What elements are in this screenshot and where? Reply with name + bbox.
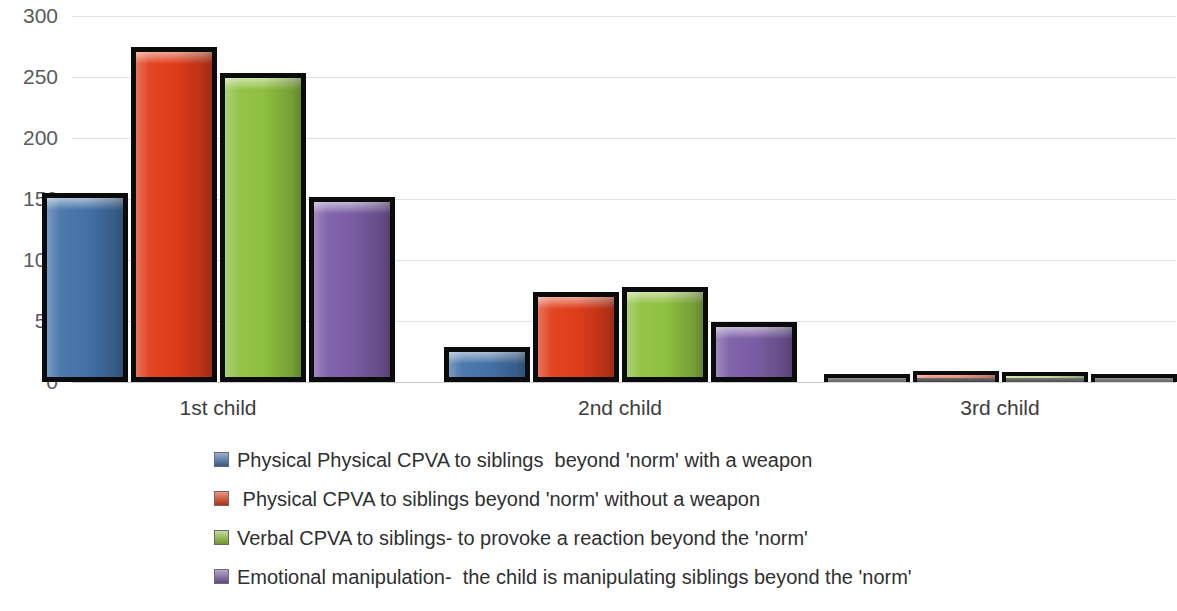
- y-tick-label-200: 200: [0, 127, 58, 148]
- bar-fill: [716, 327, 792, 377]
- bar-fill: [627, 292, 703, 377]
- bar-1st-child-series-2: [131, 47, 217, 383]
- legend-item-1[interactable]: Physical Physical CPVA to siblings beyon…: [0, 440, 1176, 479]
- legend-item-3[interactable]: Verbal CPVA to siblings- to provoke a re…: [0, 518, 1176, 557]
- y-tick-label-300: 300: [0, 5, 58, 26]
- bar-3rd-child-series-2: [913, 371, 999, 382]
- y-tick-label-250: 250: [0, 66, 58, 87]
- gridline-300: [72, 16, 1176, 17]
- legend-label-4: Emotional manipulation- the child is man…: [237, 566, 912, 588]
- bar-fill: [47, 198, 123, 377]
- bar-3rd-child-series-3: [1002, 372, 1088, 382]
- bar-fill: [136, 52, 212, 378]
- bar-fill: [449, 352, 525, 377]
- plot-area: [72, 16, 1176, 382]
- bar-2nd-child-series-2: [533, 292, 619, 382]
- bar-2nd-child-series-3: [622, 287, 708, 382]
- bar-1st-child-series-1: [42, 193, 128, 382]
- bar-fill: [917, 375, 995, 378]
- legend-label-1: Physical Physical CPVA to siblings beyon…: [237, 449, 812, 471]
- chart-legend: Physical Physical CPVA to siblings beyon…: [0, 440, 1176, 596]
- legend-swatch-icon-1: [214, 452, 229, 467]
- legend-item-4[interactable]: Emotional manipulation- the child is man…: [0, 557, 1176, 596]
- bar-1st-child-series-3: [220, 73, 306, 382]
- legend-label-2: Physical CPVA to siblings beyond 'norm' …: [237, 488, 760, 510]
- bar-fill: [538, 297, 614, 377]
- bar-2nd-child-series-1: [444, 347, 530, 382]
- legend-item-2[interactable]: Physical CPVA to siblings beyond 'norm' …: [0, 479, 1176, 518]
- bar-fill: [1006, 376, 1084, 378]
- bar-3rd-child-series-4: [1091, 374, 1177, 382]
- legend-swatch-icon-3: [214, 530, 229, 545]
- bar-3rd-child-series-1: [824, 374, 910, 382]
- legend-label-3: Verbal CPVA to siblings- to provoke a re…: [237, 527, 808, 549]
- x-axis-label-1: 1st child: [179, 396, 256, 420]
- x-axis-label-3: 3rd child: [960, 396, 1039, 420]
- bar-fill: [314, 202, 390, 377]
- x-axis-label-2: 2nd child: [578, 396, 662, 420]
- bar-1st-child-series-4: [309, 197, 395, 382]
- bar-fill: [225, 78, 301, 377]
- bar-2nd-child-series-4: [711, 322, 797, 382]
- legend-swatch-icon-4: [214, 569, 229, 584]
- legend-swatch-icon-2: [214, 491, 229, 506]
